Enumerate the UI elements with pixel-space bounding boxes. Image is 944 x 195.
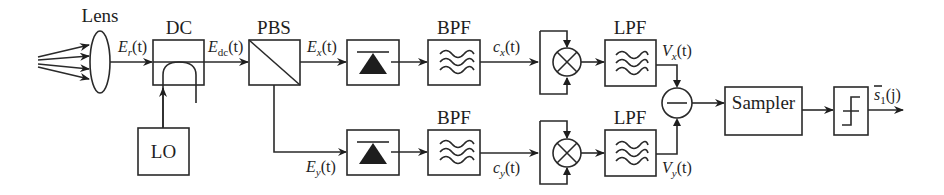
sampler-label: Sampler xyxy=(732,92,796,113)
edc-label: Edc(t) xyxy=(207,38,243,58)
cx-label: cx(t) xyxy=(493,38,520,58)
lens: Lens xyxy=(82,5,119,93)
bpf-x-label: BPF xyxy=(437,17,471,38)
er-label: Er(t) xyxy=(117,38,147,58)
s1-label: s1(j) xyxy=(874,86,901,106)
ey-label: Ey(t) xyxy=(305,158,336,178)
vx-label: Vx(t) xyxy=(662,42,692,62)
mixer-y xyxy=(540,121,581,184)
lens-icon xyxy=(90,31,110,93)
pbs-label: PBS xyxy=(257,17,291,38)
mixer-x xyxy=(540,31,581,94)
ey-line xyxy=(274,85,346,152)
cy-label: cy(t) xyxy=(493,159,520,179)
subtractor xyxy=(662,88,692,118)
lens-label: Lens xyxy=(82,5,119,26)
lpf-x-label: LPF xyxy=(614,17,647,38)
dc-coupler: DC xyxy=(153,17,204,128)
ex-label: Ex(t) xyxy=(306,38,337,58)
vx-line xyxy=(656,65,677,86)
lpf-y: LPF xyxy=(605,107,656,176)
multiplier-icon xyxy=(553,48,581,76)
pbs-block: PBS xyxy=(249,17,300,85)
vy-label: Vy(t) xyxy=(662,159,692,179)
lo-block: LO xyxy=(138,128,189,175)
bpf-y-label: BPF xyxy=(437,107,471,128)
multiplier-icon xyxy=(553,139,581,167)
sampler-block: Sampler xyxy=(725,87,802,135)
bpf-y: BPF xyxy=(428,107,480,175)
dc-label: DC xyxy=(166,17,192,38)
input-rays xyxy=(38,45,89,79)
lo-label: LO xyxy=(151,141,176,162)
decision-block xyxy=(834,87,868,135)
lpf-y-label: LPF xyxy=(614,107,647,128)
receiver-block-diagram: Lens Er(t) DC LO Edc(t) PBS Ex(t) xyxy=(0,0,944,195)
lpf-x: LPF xyxy=(605,17,656,86)
bpf-x: BPF xyxy=(428,17,480,85)
